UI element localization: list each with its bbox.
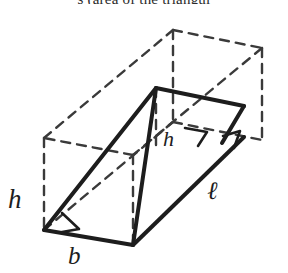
bounding-box-dashed-edges [44, 30, 262, 245]
prism-edge-base-right [133, 137, 244, 245]
triangular-prism-diagram [0, 0, 288, 273]
label-base: b [68, 243, 81, 268]
box-edge-bottom-back-right [173, 122, 262, 140]
right-angle-marker-apex-ridge [185, 128, 207, 146]
prism-edge-ridge [156, 88, 244, 106]
prism-edge-base-front [44, 230, 133, 245]
box-edge-top-back-left [44, 30, 173, 138]
label-length: ℓ [207, 178, 217, 203]
box-edge-top-back-right [173, 30, 262, 48]
right-angle-marker-base-left [62, 213, 79, 232]
box-edge-top-front-left [44, 138, 133, 155]
label-height-apex: h [163, 128, 174, 150]
figure-page: s (area of the triangul [0, 0, 288, 273]
label-height-left: h [8, 186, 22, 213]
